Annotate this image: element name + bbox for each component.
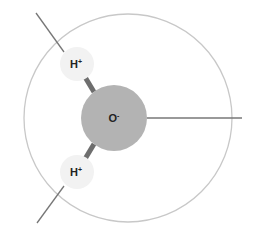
bond-bottom [85, 144, 94, 159]
bond-top [85, 77, 94, 92]
pointer-line-bottom [37, 186, 64, 223]
pointer-line-top [36, 13, 64, 52]
molecule-diagram: H+ H+ O- [0, 0, 255, 235]
